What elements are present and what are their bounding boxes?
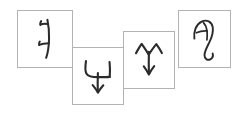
glyph-card-3[interactable]: [123, 31, 175, 89]
trident-down-arrow-glyph: [73, 48, 123, 104]
glyph-card-4[interactable]: [178, 10, 231, 68]
curved-hook-loop-glyph: [179, 11, 230, 67]
glyph-card-1[interactable]: [17, 10, 73, 68]
glyph-card-2[interactable]: [72, 47, 124, 105]
upward-fork-down-arrow-glyph: [124, 32, 174, 88]
branched-vertical-stroke-glyph: [18, 11, 72, 67]
glyph-card-canvas: [0, 0, 245, 114]
